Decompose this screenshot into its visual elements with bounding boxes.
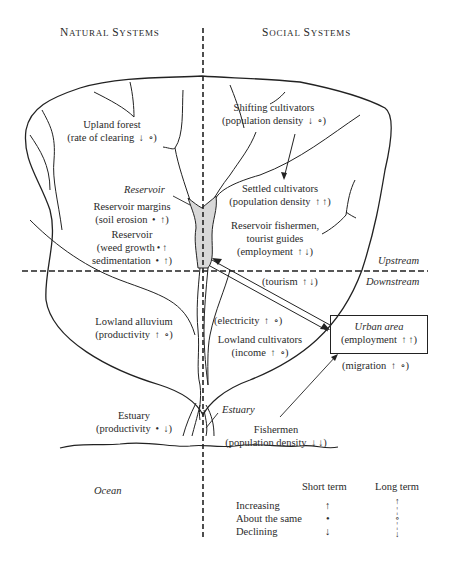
short-same-icon: • bbox=[157, 241, 161, 254]
long-same-icon: ∘ bbox=[401, 359, 406, 372]
legend-short-same-icon: • bbox=[326, 512, 330, 525]
long-declining-icon: ↓ bbox=[309, 275, 314, 288]
natural-reservoir: Reservoir (weed growth•↑ sedimentation •… bbox=[78, 228, 186, 267]
legend-short-term-header: Short term bbox=[302, 480, 347, 493]
short-same-icon: • bbox=[155, 254, 159, 267]
long-declining-icon: ↓ bbox=[318, 436, 323, 449]
main-river-left-bank bbox=[197, 268, 200, 420]
short-increasing-icon: ↑ bbox=[402, 333, 407, 346]
river-forest-3 bbox=[163, 147, 175, 149]
long-same-icon: ∘ bbox=[274, 314, 279, 327]
short-increasing-icon: ↑ bbox=[271, 346, 276, 359]
urban-area: Urban area (employment ↑↑) bbox=[330, 320, 428, 346]
social-electricity: (electricity ↑ ∘) bbox=[214, 314, 282, 327]
long-same-icon: ∘ bbox=[164, 328, 169, 341]
short-increasing-icon: ↑ bbox=[315, 195, 320, 208]
long-increasing-icon: ↑ bbox=[164, 254, 169, 267]
short-increasing-icon: ↑ bbox=[155, 328, 160, 341]
social-fishermen: Fishermen (population density ↓↓) bbox=[216, 423, 336, 449]
reservoir-label: Reservoir bbox=[124, 183, 165, 196]
long-increasing-icon: ↑ bbox=[162, 241, 167, 254]
lowland-river-right bbox=[208, 270, 230, 385]
arrowhead-settled bbox=[281, 172, 287, 180]
arrow-shifting-to-settled bbox=[284, 134, 295, 178]
natural-upland-forest: Upland forest (rate of clearing ↓ ∘) bbox=[60, 118, 164, 144]
social-tourism: (tourism ↑↓) bbox=[262, 275, 318, 288]
short-declining-icon: ↓ bbox=[139, 131, 144, 144]
urban-migration: (migration ↑ ∘) bbox=[342, 359, 409, 372]
legend-short-declining-icon: ↓ bbox=[325, 525, 330, 538]
long-same-icon: ∘ bbox=[280, 346, 285, 359]
long-same-icon: ∘ bbox=[318, 114, 323, 127]
legend-increasing-label: Increasing bbox=[236, 499, 280, 512]
legend-long-declining-icon: ¦↓ bbox=[395, 521, 400, 539]
short-increasing-icon: ↑ bbox=[298, 245, 303, 258]
long-increasing-icon: ↑ bbox=[409, 333, 414, 346]
river-forest-2 bbox=[130, 82, 134, 117]
river-left-1 bbox=[42, 110, 62, 230]
short-declining-icon: ↓ bbox=[311, 436, 316, 449]
header-social-systems: SOCIAL SYSTEMS bbox=[262, 26, 351, 40]
social-reservoir-fishermen: Reservoir fishermen, tourist guides (emp… bbox=[222, 219, 328, 258]
short-increasing-icon: ↑ bbox=[391, 359, 396, 372]
social-settled-cultivators: Settled cultivators (population density … bbox=[218, 182, 342, 208]
legend-long-term-header: Long term bbox=[375, 480, 419, 493]
social-lowland-cultivators: Lowland cultivators (income ↑ ∘) bbox=[210, 333, 310, 359]
short-same-icon: • bbox=[155, 422, 159, 435]
legend-short-increasing-icon: ↑ bbox=[325, 499, 330, 512]
header-natural-systems: NATURAL SYSTEMS bbox=[60, 26, 160, 40]
river-central-left bbox=[175, 90, 190, 200]
legend-declining-label: Declining bbox=[236, 525, 277, 538]
short-increasing-icon: ↑ bbox=[264, 314, 269, 327]
natural-reservoir-margins: Reservoir margins (soil erosion • ↑) bbox=[82, 200, 182, 226]
short-increasing-icon: ↑ bbox=[302, 275, 307, 288]
social-shifting-cultivators: Shifting cultivators (population density… bbox=[214, 101, 334, 127]
river-left-2 bbox=[30, 135, 50, 190]
short-same-icon: • bbox=[152, 213, 156, 226]
legend-same-label: About the same bbox=[236, 512, 302, 525]
natural-estuary: Estuary (productivity • ↓) bbox=[88, 409, 180, 435]
arrowhead-reservoir bbox=[212, 258, 222, 265]
short-declining-icon: ↓ bbox=[308, 114, 313, 127]
upstream-label: Upstream bbox=[378, 254, 419, 267]
natural-lowland-alluvium: Lowland alluvium (productivity ↑ ∘) bbox=[86, 315, 182, 341]
long-declining-icon: ↓ bbox=[164, 422, 169, 435]
river-forest-1 bbox=[94, 92, 134, 117]
estuary-label: Estuary bbox=[222, 403, 255, 416]
downstream-label: Downstream bbox=[366, 275, 419, 288]
ocean-label: Ocean bbox=[94, 484, 121, 497]
river-right-5b bbox=[346, 212, 356, 218]
long-increasing-icon: ↑ bbox=[322, 195, 327, 208]
long-declining-icon: ↓ bbox=[305, 245, 310, 258]
arrow-fishermen-to-urban bbox=[280, 356, 336, 417]
long-same-icon: ∘ bbox=[148, 131, 153, 144]
long-increasing-icon: ↑ bbox=[160, 213, 165, 226]
